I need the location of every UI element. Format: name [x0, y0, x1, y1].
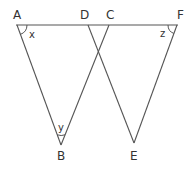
vertex-label-b: B: [57, 149, 65, 163]
segment-ef: [134, 25, 177, 143]
segment-de: [88, 25, 134, 143]
angle-arc-a: [20, 25, 27, 34]
vertex-label-a: A: [13, 8, 22, 22]
angle-arc-f: [168, 25, 174, 34]
vertex-label-d: D: [80, 8, 89, 22]
vertex-label-f: F: [177, 8, 184, 22]
angle-label-y: y: [58, 122, 64, 133]
angle-arc-b: [57, 135, 65, 136]
geometry-diagram: A D C F B E x y z: [0, 0, 190, 169]
segment-bc: [61, 25, 109, 145]
angle-label-z: z: [160, 28, 165, 39]
vertex-label-c: C: [106, 8, 114, 22]
segment-ab: [17, 25, 61, 145]
angle-label-x: x: [29, 29, 35, 40]
vertex-label-e: E: [130, 149, 138, 163]
